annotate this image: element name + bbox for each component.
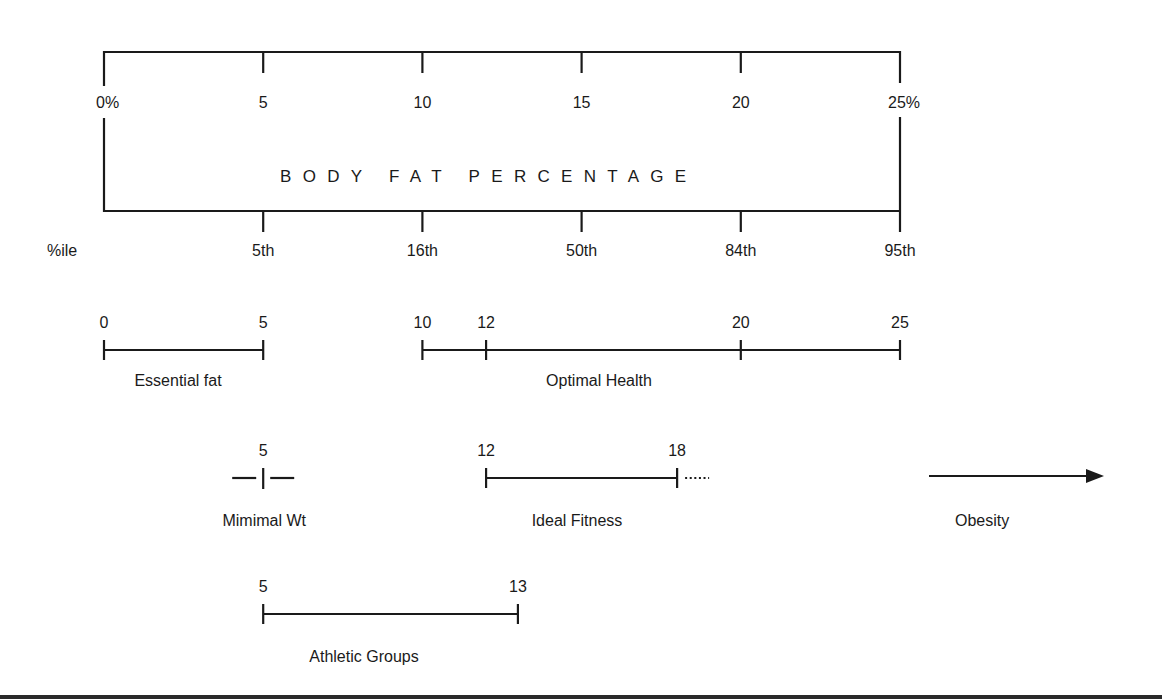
range-label: Athletic Groups <box>309 648 418 665</box>
percentile-label: 95th <box>884 242 915 259</box>
percentile-label: 5th <box>252 242 274 259</box>
percentile-label: 16th <box>407 242 438 259</box>
range-mark-label: 18 <box>668 442 686 459</box>
range-mark-label: 10 <box>414 314 432 331</box>
range-mark-label: 0 <box>100 314 109 331</box>
range-mark-label: 5 <box>259 578 268 595</box>
percentile-label: 84th <box>725 242 756 259</box>
range-row-minimal-ideal-obesity: 5Mimimal Wt1218Ideal Fitness <box>222 442 709 529</box>
obesity-arrow <box>929 469 1104 483</box>
range-mark-label: 5 <box>259 442 268 459</box>
range-row-athletic: 513Athletic Groups <box>259 578 527 665</box>
range-row-essential-optimal: 05Essential fat10122025Optimal Health <box>100 314 909 389</box>
diagram-title: BODY FAT PERCENTAGE <box>280 167 698 186</box>
scale-tick-label: 5 <box>259 94 268 111</box>
range-label: Essential fat <box>134 372 222 389</box>
percentile-labels: 5th16th50th84th95th <box>252 242 915 259</box>
range-label-obesity: Obesity <box>955 512 1009 529</box>
percentile-label: 50th <box>566 242 597 259</box>
body-fat-diagram: 0%510152025% BODY FAT PERCENTAGE %ile 5t… <box>0 0 1162 699</box>
range-label: Optimal Health <box>546 372 652 389</box>
range-athletic-groups: 513Athletic Groups <box>259 578 527 665</box>
range-mark-label: 12 <box>477 314 495 331</box>
range-mark-label: 13 <box>509 578 527 595</box>
range-optimal-health: 10122025Optimal Health <box>414 314 909 389</box>
scale-tick-label: 25% <box>888 94 920 111</box>
range-mark-label: 20 <box>732 314 750 331</box>
top-scale-labels: 0%510152025% <box>96 94 920 111</box>
range-mimimal-wt: 5Mimimal Wt <box>222 442 306 529</box>
bottom-border <box>0 695 1162 699</box>
range-label: Mimimal Wt <box>222 512 306 529</box>
top-scale-ticks <box>263 52 741 73</box>
range-mark-label: 5 <box>259 314 268 331</box>
scale-tick-label: 0% <box>96 94 119 111</box>
percentile-axis-label: %ile <box>47 242 77 259</box>
range-label: Ideal Fitness <box>532 512 623 529</box>
scale-tick-label: 10 <box>414 94 432 111</box>
range-essential-fat: 05Essential fat <box>100 314 268 389</box>
percentile-ticks <box>263 211 741 232</box>
arrow-right-icon <box>1086 469 1104 483</box>
scale-box <box>104 51 900 232</box>
range-ideal-fitness: 1218Ideal Fitness <box>477 442 709 529</box>
range-mark-label: 12 <box>477 442 495 459</box>
range-mark-label: 25 <box>891 314 909 331</box>
scale-tick-label: 15 <box>573 94 591 111</box>
scale-tick-label: 20 <box>732 94 750 111</box>
